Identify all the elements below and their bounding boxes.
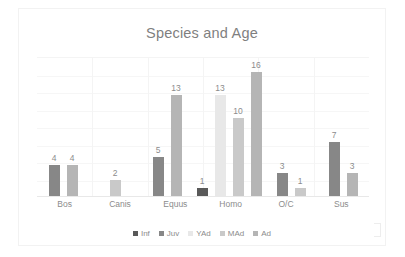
bar-slot: 1 — [197, 58, 208, 196]
bar-group: 1131016 — [193, 58, 265, 196]
legend-item[interactable]: MAd — [220, 229, 244, 238]
category-label: Sus — [314, 199, 369, 209]
chart-title: Species and Age — [19, 25, 385, 41]
legend-item[interactable]: Ad — [253, 229, 271, 238]
category-label: Homo — [203, 199, 258, 209]
bar-value-label: 3 — [350, 161, 355, 171]
legend-swatch-icon — [220, 231, 225, 236]
bar-slot: 4 — [49, 58, 60, 196]
bar-slot: 5 — [153, 58, 164, 196]
bar-value-label: 1 — [200, 176, 205, 186]
bar-slot: 16 — [251, 58, 262, 196]
bar-value-label: 3 — [280, 161, 285, 171]
bar-slot: 13 — [215, 58, 226, 196]
legend-swatch-icon — [253, 231, 258, 236]
bar-slot: 3 — [347, 58, 358, 196]
category-label: Bos — [37, 199, 92, 209]
bar-group: 31 — [265, 58, 317, 196]
bar-slot: 4 — [67, 58, 78, 196]
bar-value-label: 1 — [298, 176, 303, 186]
category-label: Equus — [148, 199, 203, 209]
bar-group: 2 — [89, 58, 141, 196]
plot-area: 44251311310163173 — [37, 57, 369, 197]
bar[interactable] — [295, 188, 306, 196]
bar[interactable] — [49, 165, 60, 196]
bar-slot: 13 — [171, 58, 182, 196]
bar-value-label: 7 — [332, 130, 337, 140]
bar[interactable] — [153, 157, 164, 196]
legend-label: MAd — [228, 229, 244, 238]
bar[interactable] — [215, 95, 226, 196]
chart-legend: InfJuvYAdMAdAd — [19, 229, 385, 238]
bar-group: 513 — [141, 58, 193, 196]
bar[interactable] — [171, 95, 182, 196]
bar-value-label: 13 — [171, 83, 180, 93]
bar[interactable] — [277, 173, 288, 196]
legend-label: Inf — [141, 229, 150, 238]
bar-value-label: 2 — [113, 168, 118, 178]
bar-groups: 44251311310163173 — [37, 58, 369, 196]
legend-item[interactable]: Juv — [159, 229, 179, 238]
bar-value-label: 5 — [156, 145, 161, 155]
bar-group: 73 — [317, 58, 369, 196]
bar[interactable] — [347, 173, 358, 196]
bar[interactable] — [110, 180, 121, 196]
bar-value-label: 16 — [251, 60, 260, 70]
legend-item[interactable]: Inf — [133, 229, 150, 238]
bar-slot: 1 — [295, 58, 306, 196]
legend-swatch-icon — [159, 231, 164, 236]
corner-bracket-mark — [374, 223, 381, 237]
chart-card: Species and Age 44251311310163173 BosCan… — [18, 8, 386, 246]
legend-swatch-icon — [188, 231, 193, 236]
bar-value-label: 13 — [215, 83, 224, 93]
bar-value-label: 10 — [233, 106, 242, 116]
bar-value-label: 4 — [52, 153, 57, 163]
legend-item[interactable]: YAd — [188, 229, 211, 238]
category-label: O/C — [258, 199, 313, 209]
bar[interactable] — [251, 72, 262, 196]
bar-slot: 3 — [277, 58, 288, 196]
bar[interactable] — [233, 118, 244, 196]
legend-label: YAd — [196, 229, 211, 238]
bar-value-label: 4 — [70, 153, 75, 163]
legend-swatch-icon — [133, 231, 138, 236]
category-axis: BosCanisEquusHomoO/CSus — [37, 199, 369, 209]
bar-slot: 2 — [110, 58, 121, 196]
bar[interactable] — [329, 142, 340, 196]
bar[interactable] — [197, 188, 208, 196]
legend-label: Juv — [167, 229, 179, 238]
bar[interactable] — [67, 165, 78, 196]
bar-slot: 7 — [329, 58, 340, 196]
bar-group: 44 — [37, 58, 89, 196]
bar-slot: 10 — [233, 58, 244, 196]
category-label: Canis — [92, 199, 147, 209]
legend-label: Ad — [261, 229, 271, 238]
